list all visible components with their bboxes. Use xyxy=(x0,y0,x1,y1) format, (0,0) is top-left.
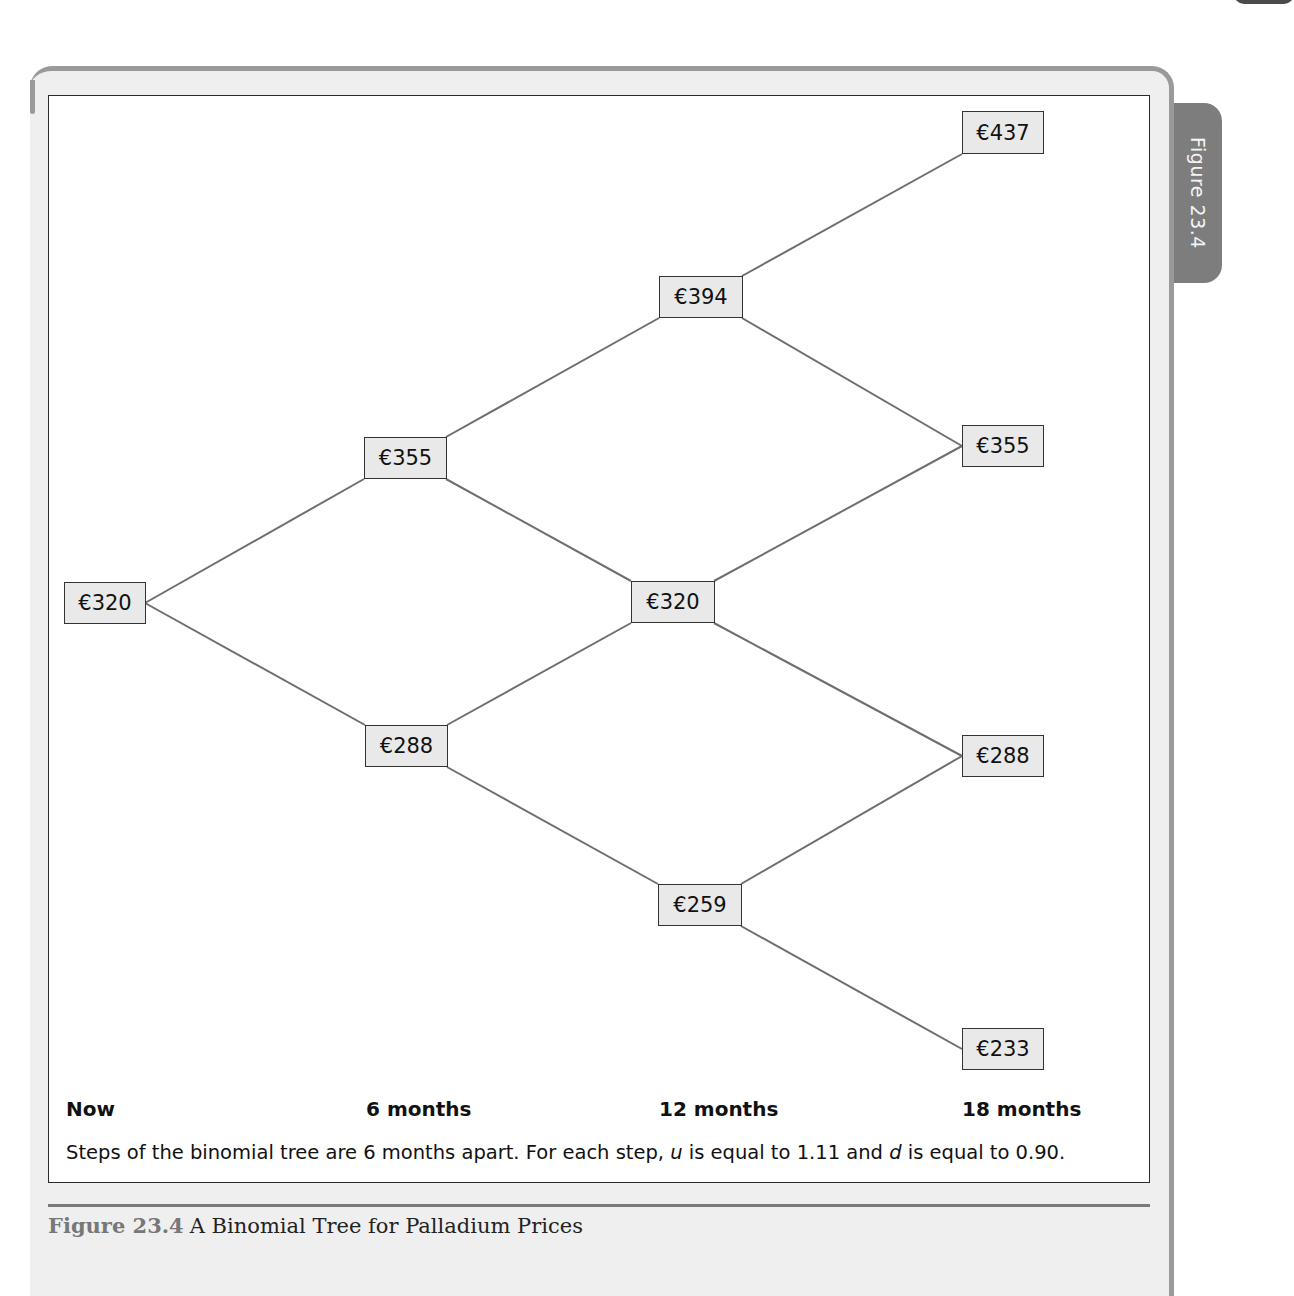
tree-node-12m-dd: €259 xyxy=(658,884,742,926)
time-label-12-months: 12 months xyxy=(659,1097,778,1121)
tree-node-6m-up: €355 xyxy=(364,437,447,479)
figure-number: Figure 23.4 xyxy=(48,1213,184,1238)
edge-320-up xyxy=(714,446,962,581)
tree-node-6m-down: €288 xyxy=(365,725,448,767)
tree-node-18m-udd: €288 xyxy=(962,735,1044,777)
time-label-18-months: 18 months xyxy=(962,1097,1081,1121)
edge-355-up xyxy=(446,318,659,437)
figure-caption: Figure 23.4A Binomial Tree for Palladium… xyxy=(48,1213,583,1238)
edge-259-down xyxy=(741,926,962,1049)
footnote-text-1: Steps of the binomial tree are 6 months … xyxy=(66,1141,670,1164)
edge-0-up xyxy=(145,479,364,603)
time-label-6-months: 6 months xyxy=(366,1097,471,1121)
tree-node-12m-ud: €320 xyxy=(631,581,715,623)
tree-footnote: Steps of the binomial tree are 6 months … xyxy=(66,1141,1065,1164)
tree-node-18m-uud: €355 xyxy=(962,425,1044,467)
edge-288-down xyxy=(447,767,658,884)
tree-node-12m-uu: €394 xyxy=(659,276,743,318)
caption-divider xyxy=(48,1204,1150,1207)
tree-node-18m-ddd: €233 xyxy=(962,1028,1044,1070)
tree-node-now: €320 xyxy=(64,582,146,624)
edge-320-down xyxy=(714,623,962,756)
tree-node-18m-uuu: €437 xyxy=(962,111,1044,154)
edge-288-up xyxy=(447,623,631,725)
footnote-text-2: is equal to 1.11 and xyxy=(683,1141,890,1164)
edge-355-down xyxy=(446,479,631,581)
time-label-now: Now xyxy=(66,1097,115,1121)
footnote-u-variable: u xyxy=(670,1141,682,1164)
edge-394-down xyxy=(742,318,962,446)
figure-title: A Binomial Tree for Palladium Prices xyxy=(190,1214,583,1238)
edge-259-up xyxy=(741,756,962,884)
footnote-text-3: is equal to 0.90. xyxy=(902,1141,1066,1164)
edge-0-down xyxy=(145,603,365,725)
footnote-d-variable: d xyxy=(889,1141,901,1164)
edge-394-up xyxy=(742,154,962,276)
